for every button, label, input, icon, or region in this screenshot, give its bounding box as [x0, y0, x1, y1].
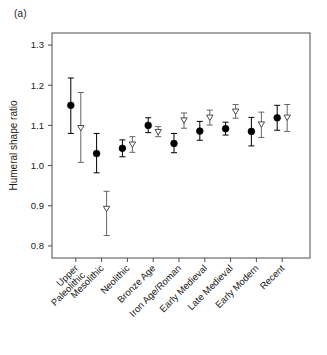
- data-point-group: [119, 140, 126, 157]
- marker-open-triangle: [284, 115, 290, 120]
- y-tick-label: 1.1: [31, 120, 44, 131]
- panel-label: (a): [14, 8, 27, 19]
- data-point-group: [248, 117, 255, 146]
- marker-filled-circle: [119, 145, 126, 152]
- marker-filled-circle: [222, 125, 229, 132]
- data-point-group: [171, 133, 178, 152]
- scatter-plot-svg: 0.80.91.01.11.21.3Humeral shape ratioUpp…: [0, 0, 327, 355]
- x-axis: UpperPaleolithicMesolithicNeolithicBronz…: [42, 258, 287, 319]
- x-category-label: Recent: [257, 262, 286, 291]
- data-point-group: [93, 133, 100, 172]
- marker-filled-circle: [196, 128, 203, 135]
- marker-filled-circle: [248, 128, 255, 135]
- marker-open-triangle: [181, 118, 187, 123]
- marker-filled-circle: [67, 102, 74, 109]
- data-point-group: [284, 105, 290, 132]
- marker-open-triangle: [207, 115, 213, 120]
- marker-open-triangle: [103, 206, 109, 211]
- series-open-triangle: [78, 92, 291, 235]
- data-point-group: [207, 110, 213, 125]
- data-point-group: [129, 137, 135, 153]
- data-point-group: [78, 92, 84, 162]
- figure-panel-a: (a) 0.80.91.01.11.21.3Humeral shape rati…: [0, 0, 327, 355]
- data-point-group: [145, 118, 152, 133]
- marker-open-triangle: [258, 122, 264, 127]
- marker-filled-circle: [145, 122, 152, 129]
- marker-open-triangle: [78, 126, 84, 131]
- plot-frame: [52, 33, 310, 258]
- y-tick-label: 0.9: [31, 200, 44, 211]
- data-point-group: [222, 122, 229, 135]
- y-axis: 0.80.91.01.11.21.3: [31, 39, 52, 251]
- y-axis-title: Humeral shape ratio: [8, 100, 19, 190]
- marker-filled-circle: [93, 150, 100, 157]
- y-tick-label: 0.8: [31, 240, 44, 251]
- y-tick-label: 1.0: [31, 160, 44, 171]
- data-point-group: [232, 105, 238, 119]
- y-tick-label: 1.3: [31, 39, 44, 50]
- series-filled-circle: [67, 78, 280, 173]
- marker-filled-circle: [171, 140, 178, 147]
- marker-filled-circle: [274, 114, 281, 121]
- marker-open-triangle: [155, 130, 161, 135]
- data-point-group: [181, 113, 187, 128]
- marker-open-triangle: [129, 142, 135, 147]
- marker-open-triangle: [232, 109, 238, 114]
- data-point-group: [274, 105, 281, 130]
- data-point-group: [258, 112, 264, 137]
- y-tick-label: 1.2: [31, 80, 44, 91]
- x-category-label-line: Recent: [257, 262, 286, 291]
- data-point-group: [103, 191, 109, 235]
- data-point-group: [196, 121, 203, 140]
- data-point-group: [155, 127, 161, 137]
- data-point-group: [67, 78, 74, 133]
